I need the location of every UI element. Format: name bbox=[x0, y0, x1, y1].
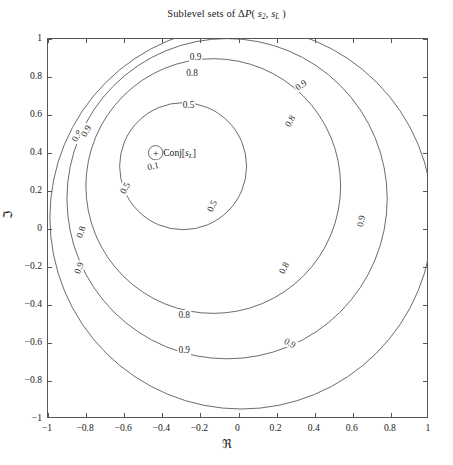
x-tick-0.8 bbox=[391, 39, 392, 43]
x-tick-label--1: −1 bbox=[27, 422, 67, 433]
y-tick-0.4 bbox=[423, 153, 427, 154]
y-tick-0 bbox=[423, 229, 427, 230]
y-tick-0.6 bbox=[423, 115, 427, 116]
y-tick-0.2 bbox=[423, 191, 427, 192]
y-tick--0.2 bbox=[48, 267, 52, 268]
x-tick-0.6 bbox=[353, 39, 354, 43]
contour-curves bbox=[48, 39, 427, 417]
conj-label-suffix: ] bbox=[193, 147, 196, 158]
contour-level-0_9-3 bbox=[67, 39, 387, 359]
x-tick-label-0.8: 0.8 bbox=[370, 422, 410, 433]
y-tick--0.8 bbox=[423, 381, 427, 382]
x-tick--0.4 bbox=[162, 39, 163, 43]
y-axis-label: ℑ bbox=[1, 185, 15, 245]
x-tick-0 bbox=[239, 39, 240, 43]
conj-point-label: Conj[sL] bbox=[163, 147, 196, 160]
x-tick-0.2 bbox=[277, 39, 278, 43]
y-tick-0 bbox=[48, 229, 52, 230]
contour-label-0_9-10: 0.9 bbox=[189, 52, 203, 62]
x-tick--0.6 bbox=[124, 413, 125, 417]
x-tick-label-0: 0 bbox=[218, 422, 258, 433]
y-tick--0.8 bbox=[48, 381, 52, 382]
contour-label-0_5-1: 0.5 bbox=[182, 100, 196, 110]
plot-area: 0.10.50.50.50.80.80.80.80.80.80.90.90.90… bbox=[47, 38, 428, 418]
chart-title: Sublevel sets of ΔP( s2, sL ) bbox=[0, 7, 453, 24]
y-tick-label--0.8: −0.8 bbox=[8, 374, 42, 385]
y-tick--0.6 bbox=[48, 343, 52, 344]
title-close-paren: ) bbox=[279, 8, 285, 19]
y-tick-label-0.8: 0.8 bbox=[8, 70, 42, 81]
x-tick-label--0.8: −0.8 bbox=[65, 422, 105, 433]
y-tick-0.6 bbox=[48, 115, 52, 116]
y-tick-0.8 bbox=[423, 77, 427, 78]
conj-label-prefix: Conj[ bbox=[163, 147, 185, 158]
y-tick-label-0.4: 0.4 bbox=[8, 146, 42, 157]
x-tick--1 bbox=[48, 413, 49, 417]
contour-plot-figure: Sublevel sets of ΔP( s2, sL ) 0.10.50.50… bbox=[0, 0, 453, 465]
x-tick--0.6 bbox=[124, 39, 125, 43]
x-tick-0.6 bbox=[353, 413, 354, 417]
x-tick--0.2 bbox=[200, 39, 201, 43]
x-tick-label-0.2: 0.2 bbox=[256, 422, 296, 433]
title-prefix: Sublevel sets of bbox=[167, 8, 238, 19]
x-tick-0.4 bbox=[315, 413, 316, 417]
x-tick-0.2 bbox=[277, 413, 278, 417]
y-tick-label--0.6: −0.6 bbox=[8, 336, 42, 347]
x-tick--0.8 bbox=[86, 413, 87, 417]
y-tick-label-1: 1 bbox=[8, 32, 42, 43]
y-tick--0.4 bbox=[48, 305, 52, 306]
x-tick-label--0.4: −0.4 bbox=[141, 422, 181, 433]
x-tick-label-0.4: 0.4 bbox=[294, 422, 334, 433]
x-tick-0.8 bbox=[391, 413, 392, 417]
title-delta: Δ bbox=[238, 8, 245, 19]
y-tick--0.2 bbox=[423, 267, 427, 268]
x-tick-label--0.2: −0.2 bbox=[179, 422, 219, 433]
contour-level-0_5-1 bbox=[120, 103, 247, 230]
x-tick-label-1: 1 bbox=[408, 422, 448, 433]
y-tick-label-0.6: 0.6 bbox=[8, 108, 42, 119]
contour-label-0_8-4: 0.8 bbox=[185, 68, 199, 78]
contour-label-0_9-16: 0.9 bbox=[177, 345, 191, 355]
y-tick-label--0.4: −0.4 bbox=[8, 298, 42, 309]
x-tick-0 bbox=[239, 413, 240, 417]
x-axis-label: ℜ bbox=[0, 437, 453, 451]
y-tick-0.4 bbox=[48, 153, 52, 154]
contour-level-0_9-4 bbox=[50, 39, 427, 409]
y-tick-1 bbox=[423, 39, 427, 40]
y-tick-0.2 bbox=[48, 191, 52, 192]
contour-label-0_8-9: 0.8 bbox=[177, 310, 191, 320]
y-tick-label--0.2: −0.2 bbox=[8, 260, 42, 271]
x-tick--0.8 bbox=[86, 39, 87, 43]
x-tick-label-0.6: 0.6 bbox=[332, 422, 372, 433]
y-tick-0.8 bbox=[48, 77, 52, 78]
x-tick-label--0.6: −0.6 bbox=[103, 422, 143, 433]
y-tick-1 bbox=[48, 39, 52, 40]
x-tick--0.4 bbox=[162, 413, 163, 417]
y-tick--0.4 bbox=[423, 305, 427, 306]
conj-point-marker: + bbox=[153, 149, 159, 157]
x-tick-0.4 bbox=[315, 39, 316, 43]
y-tick--0.6 bbox=[423, 343, 427, 344]
y-tick-label--1: −1 bbox=[8, 412, 42, 423]
x-tick--0.2 bbox=[200, 413, 201, 417]
